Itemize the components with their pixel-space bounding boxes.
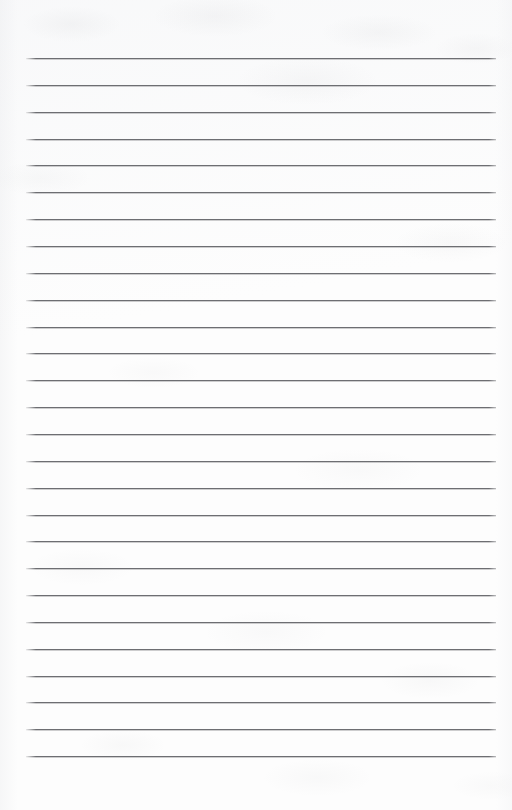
rule-line-22 [26,622,496,623]
scanned-page [0,0,512,810]
rule-line-4 [26,139,496,140]
rule-line-15 [26,434,496,435]
rule-line-8 [26,246,496,247]
rule-line-17 [26,488,496,489]
rule-line-10 [26,300,496,301]
rule-line-5 [26,165,496,166]
rule-line-13 [26,380,496,381]
rule-line-27 [26,756,496,757]
rule-line-16 [26,461,496,462]
rule-line-9 [26,273,496,274]
ruled-lines-layer [0,0,512,810]
rule-line-26 [26,729,496,730]
rule-line-1 [26,58,496,59]
rule-line-21 [26,595,496,596]
rule-line-24 [26,676,496,677]
rule-line-12 [26,353,496,354]
rule-line-19 [26,541,496,542]
rule-line-25 [26,702,496,703]
rule-line-18 [26,515,496,516]
rule-line-11 [26,327,496,328]
rule-line-14 [26,407,496,408]
rule-line-23 [26,649,496,650]
rule-line-2 [26,85,496,86]
rule-line-3 [26,112,496,113]
rule-line-20 [26,568,496,569]
rule-line-6 [26,192,496,193]
rule-line-7 [26,219,496,220]
